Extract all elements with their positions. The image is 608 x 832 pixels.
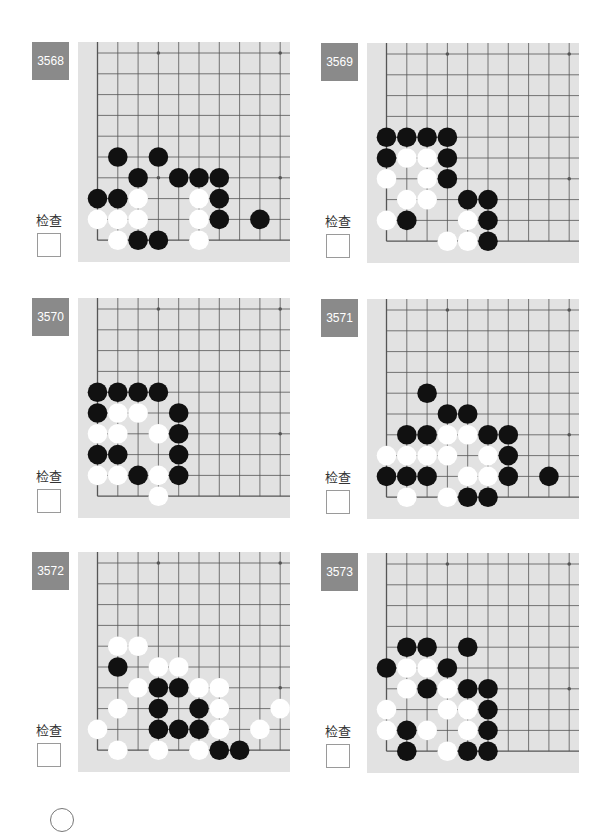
black-stone — [417, 679, 437, 699]
black-stone — [478, 721, 498, 741]
check-label: 检查 — [36, 466, 62, 485]
black-stone — [397, 127, 417, 147]
go-board — [367, 299, 579, 519]
black-stone — [108, 147, 128, 167]
white-stone — [169, 657, 189, 677]
white-stone — [377, 169, 397, 189]
white-stone — [417, 148, 437, 168]
check-checkbox[interactable] — [326, 744, 350, 768]
white-stone — [108, 740, 128, 760]
black-stone — [88, 382, 108, 402]
white-stone — [210, 678, 230, 698]
black-stone — [478, 700, 498, 720]
white-stone — [88, 466, 108, 486]
white-stone — [88, 424, 108, 444]
black-stone — [478, 211, 498, 231]
white-stone — [189, 210, 209, 230]
white-stone — [458, 467, 478, 487]
white-stone — [377, 721, 397, 741]
problem-number-label: 3573 — [321, 553, 358, 591]
black-stone — [397, 741, 417, 761]
white-stone — [108, 466, 128, 486]
check-label: 检查 — [36, 210, 62, 229]
white-stone — [417, 658, 437, 678]
problem-number-label: 3569 — [321, 43, 358, 81]
white-stone — [88, 210, 108, 230]
black-stone — [539, 467, 559, 487]
black-stone — [458, 741, 478, 761]
black-stone — [88, 445, 108, 465]
check-label: 检查 — [325, 467, 351, 486]
check-label: 检查 — [325, 211, 351, 230]
white-stone — [377, 211, 397, 231]
check-label: 检查 — [325, 721, 351, 740]
black-stone — [417, 637, 437, 657]
black-stone — [397, 721, 417, 741]
black-stone — [438, 404, 458, 424]
black-stone — [128, 168, 148, 188]
white-stone — [438, 700, 458, 720]
black-stone — [458, 637, 478, 657]
check-checkbox[interactable] — [37, 743, 61, 767]
black-stone — [108, 657, 128, 677]
problem-number-label: 3568 — [32, 42, 69, 80]
black-stone — [210, 210, 230, 230]
black-stone — [169, 466, 189, 486]
white-stone — [438, 446, 458, 466]
white-stone — [108, 699, 128, 719]
check-checkbox[interactable] — [326, 234, 350, 258]
black-stone — [128, 382, 148, 402]
check-label: 检查 — [36, 720, 62, 739]
black-stone — [397, 637, 417, 657]
check-checkbox[interactable] — [37, 489, 61, 513]
problem-3572: 3572 检查 — [32, 552, 322, 784]
white-stone — [108, 424, 128, 444]
go-board — [367, 553, 579, 773]
white-stone — [377, 446, 397, 466]
check-checkbox[interactable] — [326, 490, 350, 514]
black-stone — [417, 467, 437, 487]
white-stone — [478, 467, 498, 487]
black-stone — [478, 679, 498, 699]
black-stone — [377, 148, 397, 168]
white-stone — [438, 741, 458, 761]
black-stone — [499, 467, 519, 487]
white-stone — [149, 466, 169, 486]
white-stone — [149, 424, 169, 444]
black-stone — [458, 190, 478, 210]
black-stone — [377, 467, 397, 487]
black-stone — [169, 403, 189, 423]
problem-3569: 3569 检查 — [321, 43, 608, 275]
black-stone — [108, 445, 128, 465]
white-stone — [149, 657, 169, 677]
white-stone — [397, 679, 417, 699]
black-stone — [458, 487, 478, 507]
black-stone — [377, 658, 397, 678]
white-stone — [458, 721, 478, 741]
black-stone — [149, 230, 169, 250]
white-stone — [397, 487, 417, 507]
black-stone — [499, 425, 519, 445]
black-stone — [149, 382, 169, 402]
black-stone — [149, 720, 169, 740]
black-stone — [230, 740, 250, 760]
white-stone — [417, 190, 437, 210]
black-stone — [169, 720, 189, 740]
white-stone — [108, 210, 128, 230]
problem-3570: 3570 检查 — [32, 298, 322, 530]
check-checkbox[interactable] — [37, 233, 61, 257]
black-stone — [128, 466, 148, 486]
go-board — [78, 552, 290, 772]
white-stone — [458, 211, 478, 231]
white-stone — [417, 721, 437, 741]
black-stone — [210, 740, 230, 760]
black-stone — [377, 127, 397, 147]
black-stone — [169, 168, 189, 188]
black-stone — [417, 425, 437, 445]
white-stone — [149, 740, 169, 760]
white-stone — [397, 148, 417, 168]
black-stone — [88, 403, 108, 423]
problem-number-label: 3570 — [32, 298, 69, 336]
white-stone — [478, 446, 498, 466]
white-stone — [88, 720, 108, 740]
